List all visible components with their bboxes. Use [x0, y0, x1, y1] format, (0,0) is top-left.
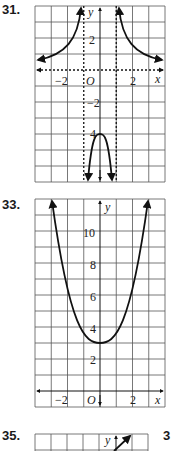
labels-31: y x O −2 2 2 −2 4: [55, 5, 161, 141]
svg-text:y: y: [104, 200, 111, 214]
svg-text:2: 2: [130, 393, 136, 407]
svg-text:y: y: [104, 433, 111, 447]
svg-text:y: y: [87, 5, 94, 19]
svg-text:4: 4: [90, 127, 96, 141]
graph-31: y x O −2 2 2 −2 4 y x O −2 2 10 8 6 4 2: [0, 0, 174, 451]
svg-text:O: O: [87, 393, 96, 407]
svg-text:O: O: [86, 74, 95, 88]
svg-text:10: 10: [83, 226, 95, 240]
svg-text:8: 8: [90, 258, 96, 272]
svg-text:6: 6: [90, 290, 96, 304]
svg-text:2: 2: [130, 74, 136, 88]
svg-text:2: 2: [90, 353, 96, 367]
svg-text:x: x: [154, 72, 161, 86]
svg-text:4: 4: [90, 322, 96, 336]
svg-text:2: 2: [89, 33, 95, 47]
svg-text:−2: −2: [55, 74, 68, 88]
svg-text:−2: −2: [55, 393, 68, 407]
grid-35: [35, 434, 148, 451]
svg-text:−2: −2: [87, 96, 100, 110]
svg-text:x: x: [154, 393, 161, 407]
